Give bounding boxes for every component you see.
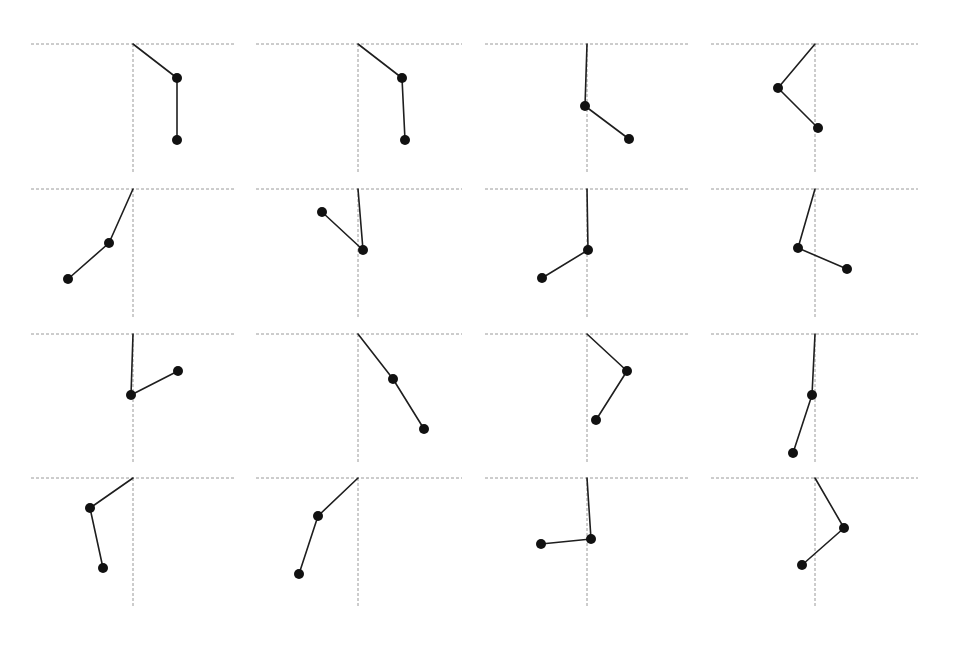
lower-bob <box>536 539 546 549</box>
pendulum-panel <box>711 478 918 608</box>
lower-rod <box>68 243 109 279</box>
upper-bob <box>583 245 593 255</box>
lower-bob <box>294 569 304 579</box>
pendulum-panel <box>485 189 690 319</box>
lower-rod <box>299 516 318 574</box>
lower-rod <box>541 539 591 544</box>
lower-bob <box>842 264 852 274</box>
pendulum-panel <box>485 334 690 464</box>
upper-rod <box>358 44 402 78</box>
lower-bob <box>63 274 73 284</box>
lower-bob <box>317 207 327 217</box>
upper-bob <box>580 101 590 111</box>
lower-rod <box>393 379 424 429</box>
upper-bob <box>839 523 849 533</box>
pendulum-panel <box>31 189 235 319</box>
lower-rod <box>802 528 844 565</box>
double-pendulum-grid <box>0 0 953 645</box>
upper-rod <box>798 189 815 248</box>
pendulum-panel <box>256 189 462 319</box>
pendulum-panel <box>711 44 918 174</box>
lower-bob <box>400 135 410 145</box>
lower-bob <box>813 123 823 133</box>
upper-rod <box>587 334 627 371</box>
lower-rod <box>585 106 629 139</box>
pendulum-panel <box>256 334 462 464</box>
lower-rod <box>322 212 363 250</box>
pendulum-panel <box>31 334 235 464</box>
lower-rod <box>90 508 103 568</box>
upper-rod <box>778 44 815 88</box>
lower-rod <box>131 371 178 395</box>
upper-bob <box>313 511 323 521</box>
lower-rod <box>596 371 627 420</box>
upper-rod <box>109 189 133 243</box>
lower-bob <box>797 560 807 570</box>
lower-bob <box>537 273 547 283</box>
upper-rod <box>815 478 844 528</box>
pendulum-panel <box>485 478 690 608</box>
upper-bob <box>807 390 817 400</box>
pendulum-panel <box>256 44 462 174</box>
lower-rod <box>542 250 588 278</box>
upper-rod <box>358 189 363 250</box>
lower-bob <box>591 415 601 425</box>
pendulum-panel <box>31 44 235 174</box>
lower-rod <box>402 78 405 140</box>
lower-rod <box>798 248 847 269</box>
upper-rod <box>587 189 588 250</box>
upper-bob <box>622 366 632 376</box>
upper-bob <box>388 374 398 384</box>
pendulum-panel <box>256 478 462 608</box>
pendulum-panel <box>711 334 918 464</box>
upper-bob <box>172 73 182 83</box>
upper-bob <box>773 83 783 93</box>
upper-bob <box>793 243 803 253</box>
lower-bob <box>419 424 429 434</box>
upper-rod <box>90 478 133 508</box>
pendulum-panel <box>711 189 918 319</box>
upper-bob <box>358 245 368 255</box>
lower-bob <box>173 366 183 376</box>
upper-bob <box>126 390 136 400</box>
upper-rod <box>358 334 393 379</box>
upper-rod <box>318 478 358 516</box>
lower-bob <box>98 563 108 573</box>
upper-rod <box>587 478 591 539</box>
lower-bob <box>172 135 182 145</box>
upper-bob <box>397 73 407 83</box>
upper-bob <box>104 238 114 248</box>
lower-rod <box>778 88 818 128</box>
lower-bob <box>788 448 798 458</box>
upper-bob <box>586 534 596 544</box>
upper-rod <box>133 44 177 78</box>
upper-bob <box>85 503 95 513</box>
pendulum-panel <box>31 478 235 608</box>
pendulum-panels <box>31 44 918 608</box>
lower-rod <box>793 395 812 453</box>
lower-bob <box>624 134 634 144</box>
pendulum-panel <box>485 44 690 174</box>
